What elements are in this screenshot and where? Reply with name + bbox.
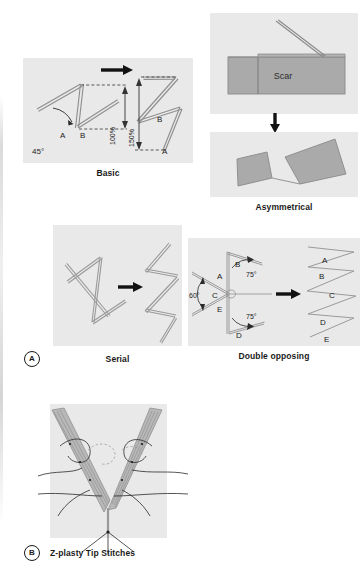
do-result-label-e: E — [324, 335, 329, 344]
scar-label-layer: Scar — [210, 13, 358, 114]
do-label-flap-e: E — [217, 305, 222, 314]
basic-label-angle-45: 45° — [32, 147, 44, 156]
basic-label-left-b: B — [80, 131, 85, 140]
knot-point — [106, 530, 109, 533]
basic-transfer-arrow — [101, 65, 133, 75]
transposed-flap-small — [237, 152, 272, 186]
do-label-flap-b: B — [235, 260, 240, 269]
do-label-angle-75-lower: 75° — [246, 313, 257, 320]
basic-left-z — [37, 84, 119, 128]
caption-double-opposing: Double opposing — [188, 351, 360, 361]
double-opposing-design — [192, 252, 272, 334]
double-opposing-transfer-arrow — [276, 289, 301, 299]
serial-transfer-arrow — [118, 282, 143, 292]
basic-angle-arc — [53, 108, 72, 122]
caption-asymmetrical: Asymmetrical — [210, 202, 358, 212]
basic-label-gain-after: 150% — [128, 129, 135, 147]
basic-label-left-a: A — [60, 131, 66, 140]
asymmetrical-bottom-drawing — [210, 132, 358, 197]
tip-stitches-drawing — [38, 404, 198, 554]
caption-serial: Serial — [53, 354, 182, 364]
do-result-label-d: D — [320, 318, 326, 327]
do-label-angle-75-upper: 75° — [246, 271, 257, 278]
do-result-label-a: A — [322, 256, 328, 265]
tip-stitch-flap-left — [52, 408, 110, 512]
caption-tip-stitches: Z-plasty Tip Stitches — [50, 548, 230, 558]
panel-letter-a: A — [24, 351, 40, 367]
asymmetrical-down-arrow — [255, 112, 315, 134]
do-result-label-c: C — [329, 291, 335, 300]
basic-panel-drawing: A B A B 45° 100% 150% — [23, 58, 193, 163]
basic-label-right-b: B — [157, 115, 162, 124]
double-opposing-drawing: A B C D E 60° 75° 75° — [188, 238, 360, 346]
panel-letter-b: B — [24, 545, 40, 561]
figure-root: A B A B 45° 100% 150% Basic — [0, 0, 362, 571]
do-label-angle-60: 60° — [189, 292, 200, 299]
serial-result-right — [145, 243, 179, 343]
do-label-flap-c: C — [212, 291, 218, 300]
serial-design-left — [65, 257, 126, 324]
scar-label: Scar — [274, 71, 293, 81]
caption-basic: Basic — [23, 168, 193, 178]
serial-panel-drawing — [53, 225, 182, 346]
scan-edge-artifact — [0, 95, 3, 525]
basic-label-gain-before: 100% — [109, 127, 116, 145]
basic-right-z — [137, 77, 182, 151]
basic-label-right-a: A — [162, 147, 168, 156]
basic-angle-arrowhead — [68, 120, 74, 126]
tip-stitch-flap-right — [108, 408, 162, 510]
do-label-flap-d: D — [236, 331, 242, 340]
transposed-flap-large — [285, 139, 346, 184]
do-result-label-b: B — [319, 272, 324, 281]
do-label-flap-a: A — [217, 272, 223, 281]
